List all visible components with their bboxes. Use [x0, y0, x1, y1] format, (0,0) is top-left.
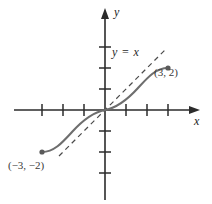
identity-line-dashed — [59, 49, 166, 156]
point-label-upper: (3, 2) — [154, 67, 178, 78]
y-axis-label: y — [114, 6, 119, 18]
endpoint-dot-lower — [39, 149, 44, 154]
identity-line-equation-label: y = x — [112, 46, 139, 58]
y-axis-arrowhead — [101, 8, 109, 19]
x-axis-arrowhead — [189, 106, 200, 114]
point-label-lower: (−3, −2) — [8, 160, 44, 171]
graph-figure: y x y = x (3, 2) (−3, −2) — [0, 0, 212, 204]
coordinate-plot — [0, 0, 212, 204]
x-axis-label: x — [194, 115, 199, 127]
